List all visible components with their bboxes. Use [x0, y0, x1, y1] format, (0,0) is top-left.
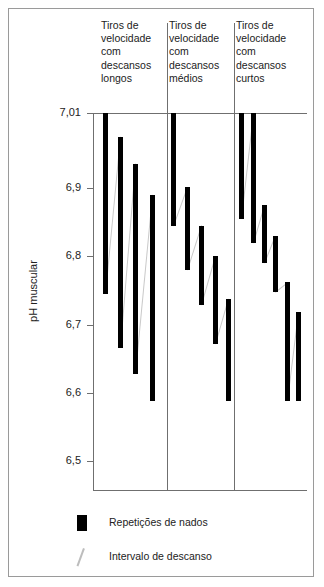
bar-longos-1	[103, 113, 109, 294]
y-axis-line	[93, 113, 94, 490]
group-header-curtos: Tiros de velocidade com descansos curtos	[236, 19, 298, 85]
bar-medios-4	[213, 256, 219, 343]
group-header-medios: Tiros de velocidade com descansos médios	[169, 19, 231, 85]
x-axis-line	[93, 490, 307, 491]
bar-medios-2	[185, 187, 191, 270]
group-separator-1	[167, 23, 168, 490]
bar-curtos-5	[285, 282, 291, 401]
bar-medios-5	[226, 299, 232, 401]
bar-longos-4	[150, 195, 156, 401]
bar-curtos-1	[239, 113, 245, 219]
group-header-longos: Tiros de velocidade com descansos longos	[101, 19, 163, 85]
y-tick-label: 6,7	[35, 319, 81, 330]
chart-legend: Repetições de nados Intervalo de descans…	[9, 506, 315, 578]
legend-rest-line-icon	[77, 548, 85, 566]
figure-frame: pH muscular 7,016,96,86,76,66,5 Tiros de…	[8, 8, 314, 577]
chart-plot-area: pH muscular 7,016,96,86,76,66,5 Tiros de…	[9, 9, 315, 578]
y-tick-label: 7,01	[35, 107, 81, 118]
group-separator-2	[234, 23, 235, 490]
bar-curtos-2	[251, 113, 257, 243]
bar-medios-1	[171, 113, 177, 226]
y-tick-label: 6,9	[35, 182, 81, 193]
y-tick-label: 6,6	[35, 387, 81, 398]
bar-curtos-3	[262, 205, 268, 263]
legend-label-intervalo: Intervalo de descanso	[109, 550, 212, 562]
top-reference-line	[93, 113, 307, 114]
y-axis-label: pH muscular	[27, 231, 39, 351]
y-tick-label: 6,5	[35, 455, 81, 466]
bar-medios-3	[199, 226, 205, 306]
y-tick-label: 6,8	[35, 250, 81, 261]
bar-curtos-4	[273, 236, 279, 292]
legend-label-repeticoes: Repetições de nados	[109, 516, 208, 528]
bar-longos-2	[118, 137, 124, 349]
bar-longos-3	[133, 164, 139, 373]
legend-bar-icon	[77, 515, 87, 531]
bar-curtos-6	[296, 312, 302, 401]
